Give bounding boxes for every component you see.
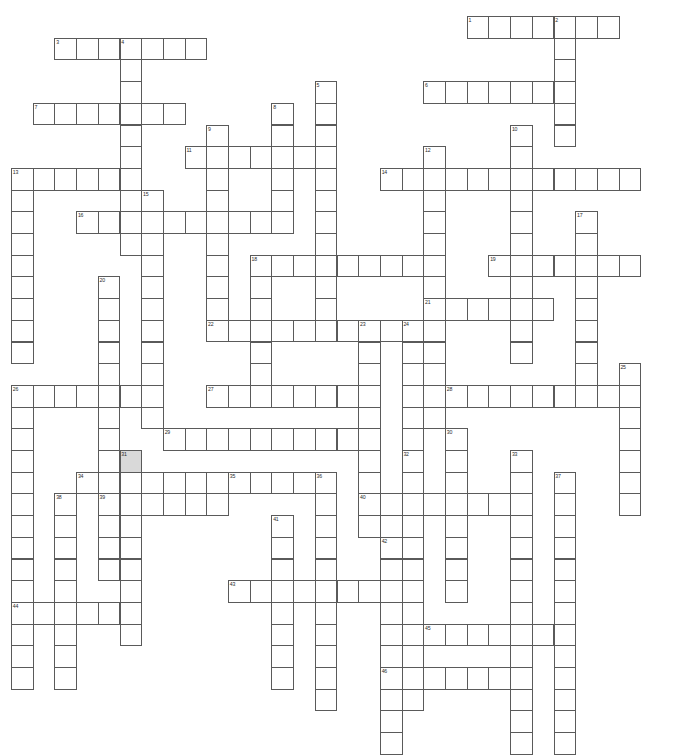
crossword-cell[interactable] [575, 233, 598, 256]
crossword-cell[interactable] [120, 559, 143, 582]
crossword-cell[interactable] [271, 168, 294, 191]
crossword-cell[interactable] [141, 233, 164, 256]
crossword-cell[interactable] [271, 559, 294, 582]
crossword-cell[interactable] [510, 385, 533, 408]
crossword-cell[interactable] [402, 602, 425, 625]
crossword-cell[interactable] [358, 428, 381, 451]
crossword-cell[interactable] [228, 580, 251, 603]
crossword-cell[interactable] [445, 472, 468, 495]
crossword-cell[interactable] [554, 16, 577, 39]
crossword-cell[interactable] [141, 493, 164, 516]
crossword-cell[interactable] [315, 689, 338, 712]
crossword-cell[interactable] [141, 385, 164, 408]
crossword-cell[interactable] [380, 255, 403, 278]
crossword-cell[interactable] [337, 385, 360, 408]
crossword-cell[interactable] [532, 298, 555, 321]
crossword-cell[interactable] [163, 428, 186, 451]
crossword-cell[interactable] [445, 81, 468, 104]
crossword-cell[interactable] [423, 298, 446, 321]
crossword-cell[interactable] [250, 385, 273, 408]
crossword-cell[interactable] [271, 146, 294, 169]
crossword-cell[interactable] [467, 667, 490, 690]
crossword-cell[interactable] [575, 276, 598, 299]
crossword-cell[interactable] [402, 385, 425, 408]
crossword-cell[interactable] [380, 667, 403, 690]
crossword-cell[interactable] [619, 168, 642, 191]
crossword-cell[interactable] [141, 342, 164, 365]
crossword-cell[interactable] [11, 407, 34, 430]
crossword-cell[interactable] [271, 537, 294, 560]
crossword-cell[interactable] [445, 493, 468, 516]
crossword-cell[interactable] [98, 385, 121, 408]
crossword-cell[interactable] [206, 472, 229, 495]
crossword-cell[interactable] [120, 190, 143, 213]
crossword-cell[interactable] [11, 428, 34, 451]
crossword-cell[interactable] [206, 233, 229, 256]
crossword-cell[interactable] [11, 255, 34, 278]
crossword-cell[interactable] [315, 559, 338, 582]
crossword-cell[interactable] [98, 168, 121, 191]
crossword-cell[interactable] [11, 515, 34, 538]
crossword-cell[interactable] [423, 624, 446, 647]
crossword-cell[interactable] [380, 168, 403, 191]
crossword-cell[interactable] [120, 472, 143, 495]
crossword-cell[interactable] [423, 407, 446, 430]
crossword-cell[interactable] [11, 190, 34, 213]
crossword-cell[interactable] [445, 537, 468, 560]
crossword-cell[interactable] [358, 407, 381, 430]
crossword-cell[interactable] [554, 667, 577, 690]
crossword-cell[interactable] [120, 515, 143, 538]
crossword-cell[interactable] [554, 602, 577, 625]
crossword-cell[interactable] [76, 472, 99, 495]
crossword-cell[interactable] [98, 428, 121, 451]
crossword-cell[interactable] [206, 168, 229, 191]
crossword-cell[interactable] [423, 168, 446, 191]
crossword-cell[interactable] [271, 255, 294, 278]
crossword-cell[interactable] [141, 103, 164, 126]
crossword-cell[interactable] [315, 428, 338, 451]
crossword-cell[interactable] [510, 515, 533, 538]
crossword-cell[interactable] [445, 515, 468, 538]
crossword-cell[interactable] [293, 428, 316, 451]
crossword-cell[interactable] [445, 298, 468, 321]
crossword-cell[interactable] [532, 16, 555, 39]
crossword-cell[interactable] [315, 580, 338, 603]
crossword-cell[interactable] [206, 125, 229, 148]
crossword-cell[interactable] [315, 385, 338, 408]
crossword-cell[interactable] [488, 624, 511, 647]
crossword-cell[interactable] [271, 103, 294, 126]
crossword-cell[interactable] [423, 233, 446, 256]
crossword-cell[interactable] [315, 645, 338, 668]
crossword-cell[interactable] [120, 38, 143, 61]
crossword-cell[interactable] [554, 710, 577, 733]
crossword-cell[interactable] [510, 81, 533, 104]
crossword-cell[interactable] [315, 298, 338, 321]
crossword-cell[interactable] [402, 689, 425, 712]
crossword-cell[interactable] [358, 342, 381, 365]
crossword-cell[interactable] [488, 16, 511, 39]
crossword-cell[interactable] [380, 580, 403, 603]
crossword-cell[interactable] [228, 146, 251, 169]
crossword-cell[interactable] [423, 276, 446, 299]
crossword-cell[interactable] [554, 125, 577, 148]
crossword-cell[interactable] [98, 472, 121, 495]
crossword-cell[interactable] [54, 168, 77, 191]
crossword-cell[interactable] [402, 320, 425, 343]
crossword-cell[interactable] [315, 537, 338, 560]
crossword-cell[interactable] [315, 81, 338, 104]
crossword-cell[interactable] [33, 602, 56, 625]
crossword-cell[interactable] [141, 472, 164, 495]
crossword-cell[interactable] [98, 363, 121, 386]
crossword-cell[interactable] [98, 276, 121, 299]
crossword-cell[interactable] [11, 168, 34, 191]
crossword-cell[interactable] [358, 320, 381, 343]
crossword-cell[interactable] [98, 298, 121, 321]
crossword-cell[interactable] [141, 190, 164, 213]
crossword-cell[interactable] [163, 211, 186, 234]
crossword-cell[interactable] [510, 298, 533, 321]
crossword-cell[interactable] [315, 624, 338, 647]
crossword-cell[interactable] [554, 624, 577, 647]
crossword-cell[interactable] [597, 255, 620, 278]
crossword-cell[interactable] [315, 103, 338, 126]
crossword-cell[interactable] [467, 493, 490, 516]
